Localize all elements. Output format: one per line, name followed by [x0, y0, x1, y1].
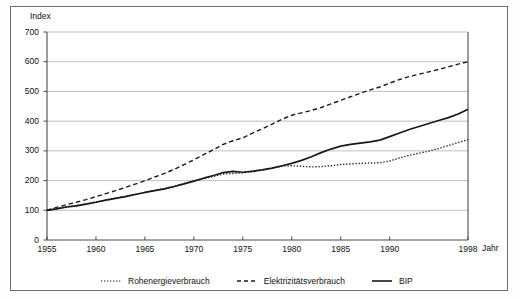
- chart-figure: Index Jahr 0100200300400500600700 195519…: [0, 0, 520, 299]
- chart-plot-area: [0, 0, 520, 299]
- y-tick-label: 600: [13, 56, 39, 66]
- x-tick-label: 1970: [174, 244, 214, 254]
- legend-label: Rohenergieverbrauch: [128, 276, 210, 286]
- x-tick-label: 1980: [272, 244, 312, 254]
- legend-item: BIP: [371, 276, 413, 286]
- y-tick-label: 0: [13, 235, 39, 245]
- legend-label: BIP: [399, 276, 413, 286]
- y-tick-label: 400: [13, 116, 39, 126]
- legend-swatch-dashed-icon: [236, 276, 258, 286]
- x-tick-label: 1960: [76, 244, 116, 254]
- x-tick-label: 1985: [321, 244, 361, 254]
- legend-swatch-dotted-icon: [100, 276, 122, 286]
- y-tick-label: 700: [13, 27, 39, 37]
- chart-legend: Rohenergieverbrauch Elektrizitätsverbrau…: [100, 276, 413, 286]
- y-tick-label: 500: [13, 86, 39, 96]
- series-line: [47, 62, 468, 211]
- x-tick-label: 1965: [125, 244, 165, 254]
- legend-label: Elektrizitätsverbrauch: [264, 276, 345, 286]
- legend-item: Rohenergieverbrauch: [100, 276, 210, 286]
- series-line: [47, 109, 468, 210]
- legend-swatch-solid-icon: [371, 276, 393, 286]
- x-tick-label: 1998: [448, 244, 488, 254]
- x-tick-label: 1990: [370, 244, 410, 254]
- y-tick-label: 200: [13, 175, 39, 185]
- x-tick-label: 1955: [27, 244, 67, 254]
- y-tick-label: 100: [13, 205, 39, 215]
- y-tick-label: 300: [13, 145, 39, 155]
- x-tick-label: 1975: [223, 244, 263, 254]
- legend-item: Elektrizitätsverbrauch: [236, 276, 345, 286]
